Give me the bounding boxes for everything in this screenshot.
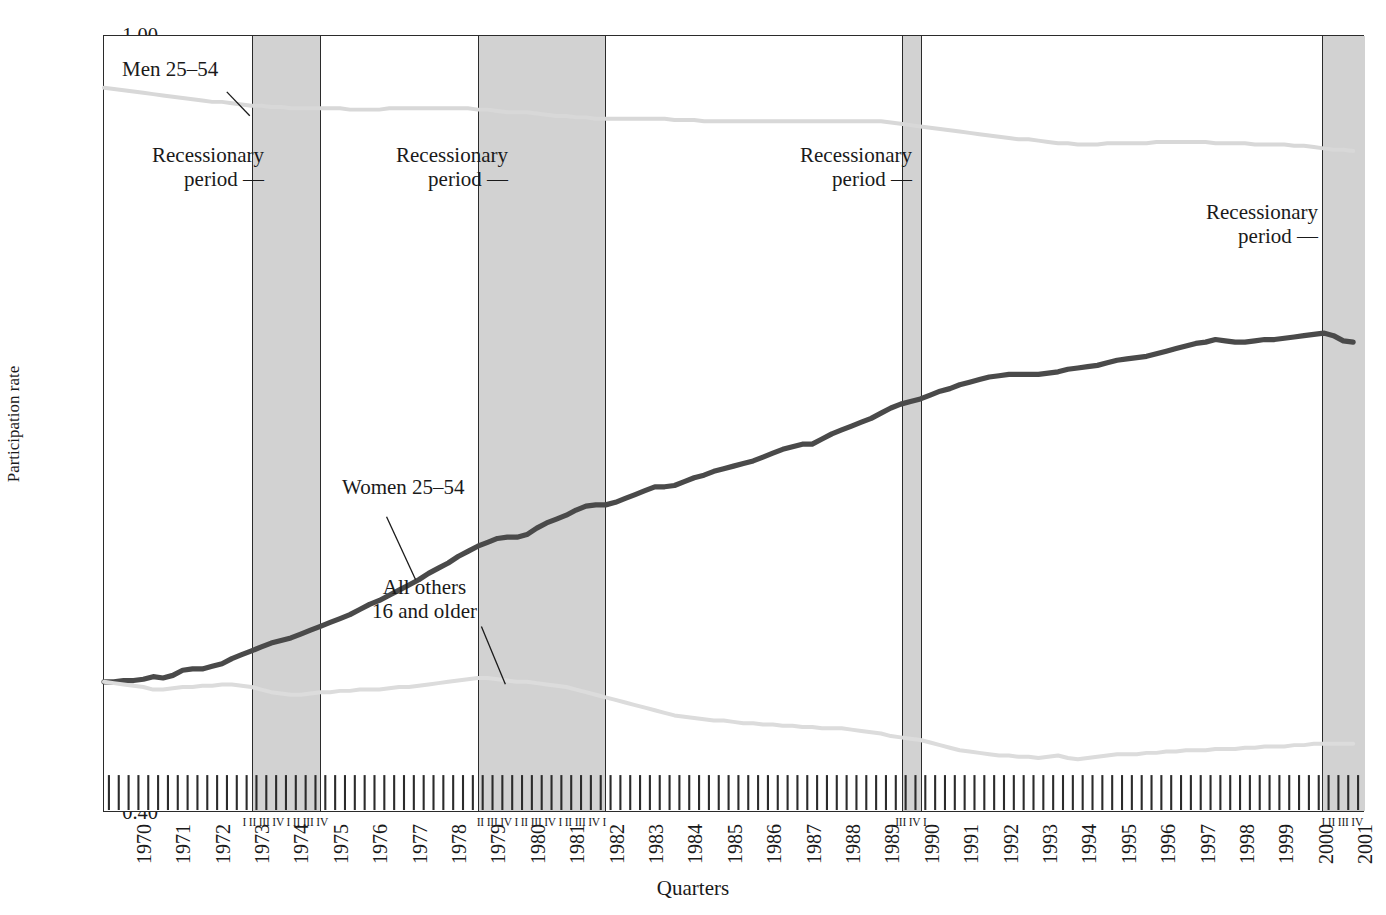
x-tick-1989: 1989 [881, 824, 904, 864]
annotation-leader-line [387, 517, 416, 580]
series-line [104, 333, 1353, 682]
x-tick-1981: 1981 [566, 824, 589, 864]
x-tick-1998: 1998 [1236, 824, 1259, 864]
x-tick-1978: 1978 [448, 824, 471, 864]
annotation-men-25-54: Men 25–54 [122, 58, 218, 82]
x-tick-1975: 1975 [330, 824, 353, 864]
recession-quarters-4: I II III IV [1322, 816, 1364, 828]
x-tick-1996: 1996 [1157, 824, 1180, 864]
series-canvas [104, 36, 1363, 811]
x-tick-1980: 1980 [527, 824, 550, 864]
series-line [104, 678, 1353, 759]
x-tick-1976: 1976 [369, 824, 392, 864]
x-tick-1991: 1991 [960, 824, 983, 864]
x-tick-1987: 1987 [803, 824, 826, 864]
annotation-recession-4: Recessionary period — [1206, 201, 1318, 249]
series-line [104, 88, 1353, 151]
recession-quarters-2: II III IV I II III IV I II III IV I [477, 816, 606, 828]
annotation-recession-3: Recessionary period — [800, 144, 912, 192]
x-tick-1985: 1985 [724, 824, 747, 864]
annotation-leader-line [481, 626, 505, 684]
annotation-recession-1: Recessionary period — [152, 144, 264, 192]
plot-area: Men 25–54 Women 25–54 All others 16 and … [103, 35, 1364, 812]
x-tick-1986: 1986 [763, 824, 786, 864]
x-tick-1995: 1995 [1118, 824, 1141, 864]
x-tick-1993: 1993 [1039, 824, 1062, 864]
x-tick-1992: 1992 [1000, 824, 1023, 864]
x-axis-title: Quarters [657, 876, 729, 901]
annotation-all-others: All others 16 and older [372, 576, 477, 624]
x-tick-1972: 1972 [212, 824, 235, 864]
annotation-recession-2: Recessionary period — [396, 144, 508, 192]
figure: Participation rate 0.400.450.500.550.600… [0, 0, 1386, 915]
x-tick-2000: 2000 [1315, 824, 1338, 864]
x-tick-1977: 1977 [409, 824, 432, 864]
y-axis-title: Participation rate [4, 366, 24, 483]
recession-quarters-3: III IV I [895, 816, 926, 828]
x-tick-1979: 1979 [487, 824, 510, 864]
x-tick-1982: 1982 [606, 824, 629, 864]
x-tick-1974: 1974 [290, 824, 313, 864]
x-tick-1990: 1990 [921, 824, 944, 864]
x-tick-1983: 1983 [645, 824, 668, 864]
recession-quarters-1: I II III IV I II III IV [242, 816, 328, 828]
x-tick-1984: 1984 [684, 824, 707, 864]
x-tick-1994: 1994 [1078, 824, 1101, 864]
x-tick-1997: 1997 [1197, 824, 1220, 864]
annotation-women-25-54: Women 25–54 [342, 476, 465, 500]
x-tick-1973: 1973 [251, 824, 274, 864]
x-tick-2001: 2001 [1354, 824, 1377, 864]
x-tick-1970: 1970 [133, 824, 156, 864]
x-tick-1999: 1999 [1275, 824, 1298, 864]
x-tick-1988: 1988 [842, 824, 865, 864]
x-tick-1971: 1971 [172, 824, 195, 864]
